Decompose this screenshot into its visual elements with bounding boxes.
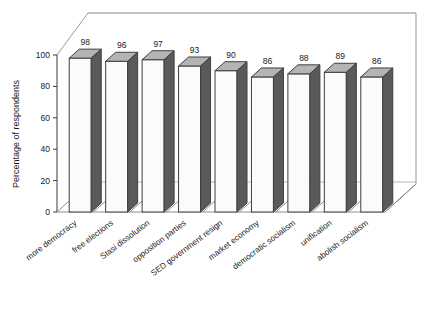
bar-value-label-7: 89 [336,51,346,61]
bar-1 [106,52,138,212]
bar-front-face [251,77,273,212]
y-tick-label-0: 0 [45,207,50,217]
bar-side-face [310,65,320,212]
bar-front-face [142,60,164,212]
bar-value-label-3: 93 [190,45,200,55]
x-category-label-6: democratic socialism [231,218,297,271]
bar-2 [142,51,174,212]
bar-side-face [201,57,211,212]
bar-3 [179,57,211,212]
bar-side-face [273,68,283,212]
y-tick-label-20: 20 [41,176,51,186]
y-tick-label-100: 100 [36,50,50,60]
bar-side-face [164,51,174,212]
bar-6 [288,65,320,212]
bar-front-face [215,71,237,212]
bar-value-label-6: 88 [299,53,309,63]
bar-front-face [288,74,310,212]
bar-8 [361,68,393,212]
x-category-label-7: unification [299,218,334,248]
y-tick-label-60: 60 [41,113,51,123]
bar-side-face [346,63,356,212]
bar-value-label-4: 90 [226,50,236,60]
bar-chart: 020406080100 989697939086888986 more dem… [0,0,430,324]
y-tick-label-40: 40 [41,144,51,154]
bar-front-face [179,66,201,212]
bar-side-face [237,62,247,212]
y-tick-label-80: 80 [41,81,51,91]
bar-0 [69,49,101,212]
bar-side-face [383,68,393,212]
bar-side-face [91,49,101,212]
x-axis-category-labels: more democracyfree electionsStasi dissol… [24,218,370,278]
bar-series [69,49,393,212]
bar-front-face [69,58,91,212]
y-axis-title: Percentage of respondents [11,79,21,188]
bar-5 [251,68,283,212]
bar-4 [215,62,247,212]
x-category-label-0: more democracy [24,218,79,262]
bar-value-label-2: 97 [153,39,163,49]
bar-value-label-8: 86 [372,56,382,66]
bar-front-face [361,77,383,212]
bar-value-label-0: 98 [80,37,90,47]
x-category-label-4: SED government resign [149,218,224,278]
bar-value-label-5: 86 [263,56,273,66]
bar-front-face [324,72,346,212]
bar-7 [324,63,356,212]
chart-canvas: 020406080100 989697939086888986 more dem… [0,0,430,324]
bar-front-face [106,61,128,212]
bar-side-face [128,52,138,212]
y-axis-ticks: 020406080100 [36,50,57,217]
bar-value-label-1: 96 [117,40,127,50]
